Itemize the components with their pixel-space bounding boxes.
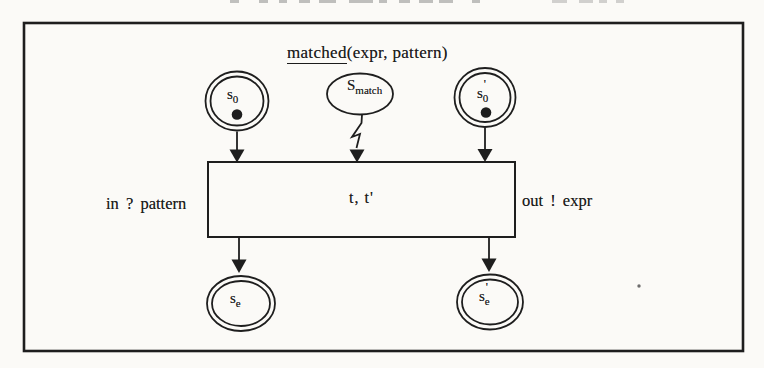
figure-frame [24,23,743,351]
title-underlined-keyword: matched [287,43,347,64]
place-subscript-stack: '0 [483,89,489,106]
place-subscript-stack: 0 [233,90,239,107]
arc-smatch-to-transition [350,115,365,163]
arrowhead [482,259,497,273]
scan-artifact-top-edge [230,0,624,3]
outer-ring [207,276,275,331]
outer-ring [457,275,523,330]
arc-s0-to-transition [230,132,245,163]
place-label-se-prime: s'e [479,288,490,309]
place-label-s0: s0 [227,86,238,107]
place-label-smatch: Smatch [347,77,382,98]
place-label-se: se [230,290,241,311]
place-se [207,276,275,331]
arc-transition-to-seprime [482,238,497,273]
arc-transition-to-se [232,238,247,274]
token-dot [232,109,243,120]
transition-name-label: t, t' [208,189,515,207]
arrowhead [478,149,493,162]
place-label-s0-prime: s'0 [477,85,488,106]
place-subscript: match [355,84,382,96]
scanned-figure-page: matched(expr, pattern) in ? pattern out … [0,0,764,368]
place-prime: ' [486,280,488,295]
place-subscript-stack: match [355,81,382,98]
title-arguments: (expr, pattern) [347,43,448,62]
place-prime: ' [484,77,486,92]
token-dot [481,107,492,118]
transition-output-label: out ! expr [522,192,592,210]
figure-title: matched(expr, pattern) [287,44,448,63]
arrowhead [230,150,245,163]
inner-ring [212,281,270,326]
arrowhead [232,260,247,274]
place-subscript: e [236,297,241,309]
arc-s0prime-to-transition [478,128,493,163]
place-se-prime [457,275,523,330]
place-subscript: e [485,295,490,307]
place-subscript: 0 [233,93,239,105]
scan-artifact-speck [637,284,640,287]
arrowhead [350,150,365,163]
inner-ring [462,280,518,325]
transition-input-label: in ? pattern [106,195,186,213]
place-subscript-stack: e [236,294,241,311]
place-subscript: 0 [483,92,489,104]
place-subscript-stack: 'e [485,292,490,309]
